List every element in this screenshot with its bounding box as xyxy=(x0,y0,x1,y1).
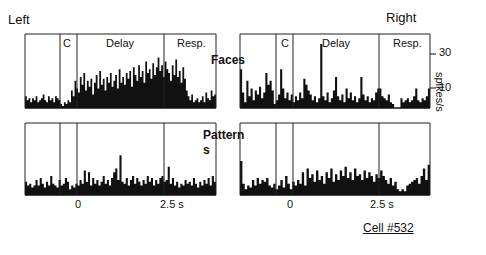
patterns-label: Pattern xyxy=(203,128,244,142)
xtick-25-right: 2.5 s xyxy=(370,198,394,210)
histogram-patterns-left xyxy=(25,123,216,195)
epoch-delay-right: Delay xyxy=(322,37,350,49)
right-label: Right xyxy=(386,10,416,25)
patterns-label-2: s xyxy=(203,143,210,157)
ytick-30: 30 xyxy=(439,46,451,58)
histogram-bars xyxy=(25,57,216,108)
xtick-25-left: 2.5 s xyxy=(160,198,184,210)
cell-label: Cell #532 xyxy=(363,221,414,235)
y-axis-label: spikes/s xyxy=(434,72,446,112)
epoch-resp-left: Resp. xyxy=(177,37,206,49)
histogram-bars xyxy=(25,155,216,195)
histogram-bars xyxy=(240,161,430,195)
xtick-0-left: 0 xyxy=(75,198,81,210)
epoch-c-right: C xyxy=(281,37,289,49)
epoch-resp-right: Resp. xyxy=(393,37,422,49)
xtick-0-right: 0 xyxy=(287,198,293,210)
histogram-bars xyxy=(240,44,430,108)
left-label: Left xyxy=(8,12,30,27)
epoch-c-left: C xyxy=(63,37,71,49)
epoch-delay-left: Delay xyxy=(106,37,134,49)
faces-label: Faces xyxy=(211,53,245,67)
histogram-patterns-right xyxy=(240,123,430,195)
